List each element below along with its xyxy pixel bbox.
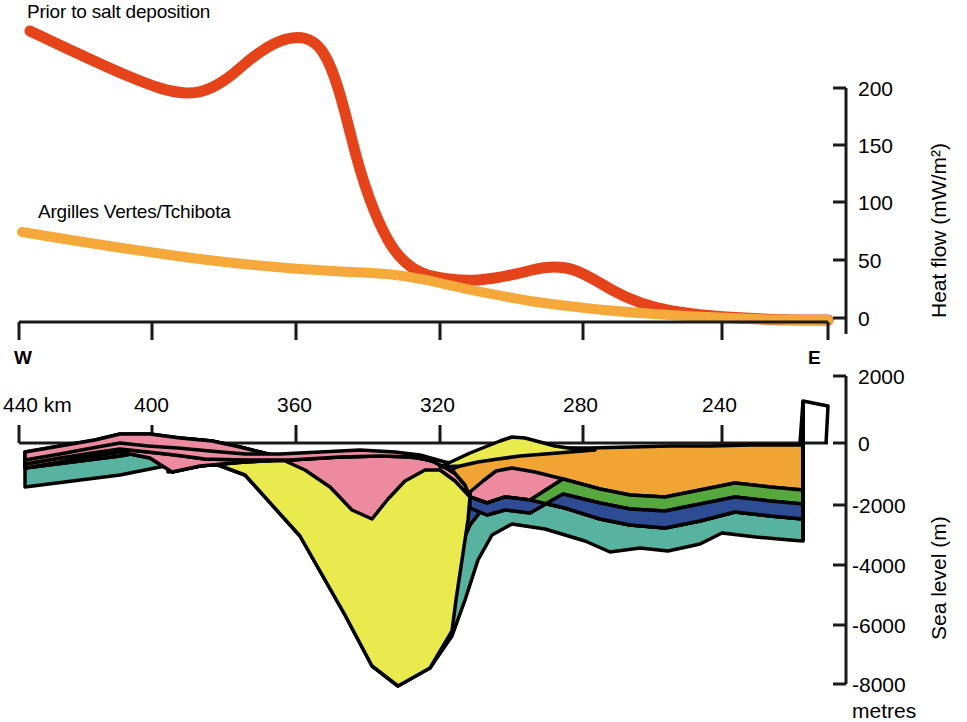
yellow-salt-body [168,456,470,686]
depth-axis-units-label: metres [852,699,916,722]
heatflow-ticklabel-100: 100 [858,191,893,214]
depth-axis [833,376,846,684]
orange-curve-label: Argilles Vertes/Tchibota [38,201,231,222]
heatflow-panel: Prior to salt deposition Argilles Vertes… [22,1,950,334]
distance-ticklabel-440: 440 km [3,393,72,416]
orange-heatflow-curve [22,232,828,320]
heatflow-ticklabel-200: 200 [858,77,893,100]
depth-ticklabel-m8000: -8000 [852,673,906,696]
heatflow-axis [833,88,846,334]
heatflow-tick-labels: 200 150 100 50 0 [858,77,893,330]
distance-ticklabel-360: 360 [277,393,312,416]
depth-ticklabel-2000: 2000 [858,365,905,388]
depth-ticklabel-m6000: -6000 [852,614,906,637]
we-axis [19,322,828,340]
distance-ticklabel-280: 280 [563,393,598,416]
distance-axis-labels: 440 km 400 360 320 280 240 [3,393,737,416]
figure-root: Prior to salt deposition Argilles Vertes… [0,0,967,722]
depth-axis-labels: 2000 0 -2000 -4000 -6000 -8000 [852,365,906,696]
distance-ticklabel-240: 240 [702,393,737,416]
heatflow-ticklabel-150: 150 [858,134,893,157]
distance-ticklabel-320: 320 [420,393,455,416]
depth-axis-title: Sea level (m) [927,516,950,640]
distance-ticklabel-400: 400 [134,393,169,416]
depth-ticklabel-m2000: -2000 [852,494,906,517]
compass-east-label: E [808,347,821,368]
heatflow-ticklabel-50: 50 [858,249,881,272]
heatflow-ticklabel-0: 0 [858,307,870,330]
depth-ticklabel-m4000: -4000 [852,554,906,577]
red-curve-label: Prior to salt deposition [27,1,210,22]
compass-west-label: W [14,347,32,368]
heatflow-axis-title: Heat flow (mW/m²) [927,143,950,318]
depth-ticklabel-0: 0 [858,432,870,455]
